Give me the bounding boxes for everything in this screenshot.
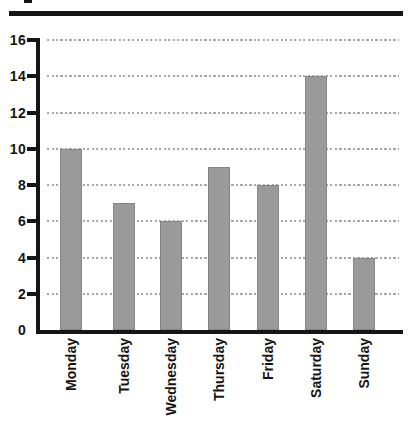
y-tick-label-6: 6 [0, 213, 26, 229]
bar-friday [257, 185, 279, 330]
y-tick-label-12: 12 [0, 105, 26, 121]
y-tick-2 [27, 292, 38, 296]
bar-chart: 1614121086420MondayTuesdayWednesdayThurs… [0, 0, 413, 422]
bar-sunday [353, 258, 375, 331]
y-tick-16 [27, 38, 38, 42]
bar-saturday [305, 76, 327, 330]
y-tick-label-16: 16 [0, 32, 26, 48]
x-label-sunday: Sunday [356, 338, 372, 389]
gridline-10 [47, 148, 399, 150]
y-tick-12 [27, 111, 38, 115]
cropped-title-fragment [24, 0, 32, 3]
x-label-saturday: Saturday [308, 338, 324, 398]
y-tick-8 [27, 183, 38, 187]
bar-thursday [208, 167, 230, 330]
gridline-12 [47, 112, 399, 114]
bar-tuesday [113, 203, 135, 330]
x-label-monday: Monday [63, 338, 79, 391]
gridline-16 [47, 39, 399, 41]
x-label-thursday: Thursday [211, 338, 227, 401]
gridline-14 [47, 75, 399, 77]
bar-monday [60, 149, 82, 330]
y-tick-label-0: 0 [0, 322, 26, 338]
y-tick-6 [27, 219, 38, 223]
y-tick-14 [27, 74, 38, 78]
x-label-wednesday: Wednesday [163, 338, 179, 416]
x-axis-line [36, 330, 403, 334]
y-tick-4 [27, 256, 38, 260]
bar-wednesday [160, 221, 182, 330]
y-tick-label-8: 8 [0, 177, 26, 193]
y-tick-label-10: 10 [0, 141, 26, 157]
y-tick-10 [27, 147, 38, 151]
y-tick-label-4: 4 [0, 250, 26, 266]
x-label-friday: Friday [260, 338, 276, 380]
y-tick-label-2: 2 [0, 286, 26, 302]
y-tick-label-14: 14 [0, 68, 26, 84]
x-label-tuesday: Tuesday [116, 338, 132, 394]
top-rule [9, 11, 403, 16]
